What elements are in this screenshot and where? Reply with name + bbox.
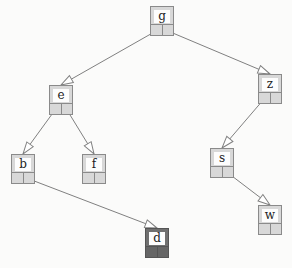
left-pointer-cell[interactable] — [83, 173, 95, 183]
right-pointer-cell[interactable] — [95, 173, 106, 183]
tree-node-g[interactable]: g — [150, 6, 174, 36]
node-pointer-cells — [50, 103, 72, 114]
node-pointer-cells — [83, 172, 105, 183]
left-pointer-cell[interactable] — [259, 224, 271, 234]
node-pointer-cells — [259, 92, 281, 103]
tree-node-d[interactable]: d — [145, 228, 169, 258]
left-pointer-cell[interactable] — [259, 93, 271, 103]
left-pointer-cell[interactable] — [151, 25, 163, 35]
tree-node-e[interactable]: e — [49, 85, 73, 115]
edge-e-b — [23, 110, 55, 154]
right-pointer-cell[interactable] — [271, 224, 282, 234]
edge-b-d — [29, 179, 157, 228]
node-key-label: z — [262, 78, 278, 91]
edge-g-z — [168, 31, 270, 74]
tree-node-z[interactable]: z — [258, 74, 282, 104]
edge-s-w — [228, 173, 270, 205]
node-pointer-cells — [151, 24, 173, 35]
node-key-label: g — [154, 10, 170, 23]
left-pointer-cell[interactable] — [50, 104, 62, 114]
node-key-label: b — [15, 158, 31, 171]
left-pointer-cell[interactable] — [12, 173, 24, 183]
tree-node-b[interactable]: b — [11, 154, 35, 184]
right-pointer-cell[interactable] — [271, 93, 282, 103]
node-key-label: d — [149, 232, 165, 245]
edge-z-s — [222, 99, 264, 148]
node-key-label: e — [53, 89, 69, 102]
node-pointer-cells — [146, 246, 168, 257]
edge-g-e — [61, 31, 156, 85]
node-key-label: f — [86, 158, 102, 171]
node-pointer-cells — [12, 172, 34, 183]
right-pointer-cell[interactable] — [223, 167, 234, 177]
node-pointer-cells — [259, 223, 281, 234]
node-key-label: s — [214, 152, 230, 165]
tree-node-w[interactable]: w — [258, 205, 282, 235]
tree-node-f[interactable]: f — [82, 154, 106, 184]
right-pointer-cell[interactable] — [158, 247, 169, 257]
tree-node-s[interactable]: s — [210, 148, 234, 178]
right-pointer-cell[interactable] — [62, 104, 73, 114]
node-key-label: w — [262, 209, 278, 222]
left-pointer-cell[interactable] — [211, 167, 223, 177]
node-pointer-cells — [211, 166, 233, 177]
left-pointer-cell[interactable] — [146, 247, 158, 257]
right-pointer-cell[interactable] — [24, 173, 35, 183]
edge-e-f — [67, 110, 94, 154]
right-pointer-cell[interactable] — [163, 25, 174, 35]
